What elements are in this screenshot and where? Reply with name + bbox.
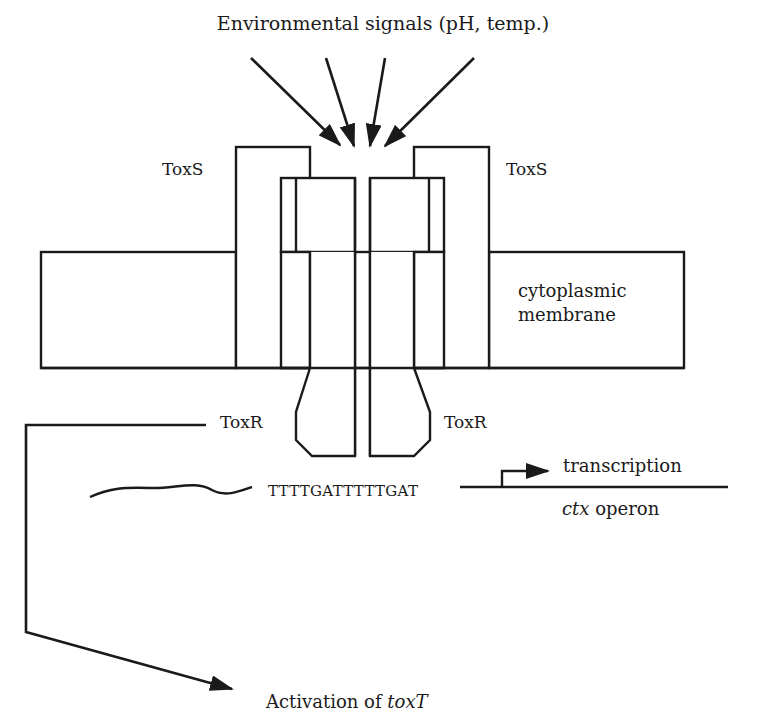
dna-wavy-line [90, 485, 252, 497]
membrane-left [41, 252, 236, 368]
toxs-right-label: ToxS [506, 159, 548, 179]
toxr-regulation-diagram: Environmental signals (pH, temp.) [0, 0, 762, 721]
toxr-left-label: ToxR [220, 412, 264, 432]
signal-arrow-3 [370, 58, 385, 146]
transcription-start-arrow [502, 471, 548, 487]
environmental-signals-title: Environmental signals (pH, temp.) [217, 12, 549, 34]
operon-word: operon [589, 498, 659, 519]
signal-arrow-1 [251, 58, 340, 145]
toxt-activation-arrow [26, 425, 232, 689]
activation-prefix: Activation of [265, 691, 387, 712]
transcription-label: transcription [563, 455, 682, 476]
activation-label: Activation of toxT [265, 691, 430, 712]
signal-arrow-2 [326, 58, 354, 146]
toxr-right [370, 178, 444, 456]
toxt-gene-name: toxT [387, 691, 429, 712]
membrane-center [355, 252, 370, 368]
toxr-left [281, 178, 355, 456]
toxs-left-label: ToxS [162, 159, 204, 179]
membrane-label-line2: membrane [518, 304, 616, 325]
membrane-label-line1: cytoplasmic [518, 280, 626, 301]
toxr-right-label: ToxR [444, 412, 488, 432]
signal-arrow-4 [385, 58, 474, 146]
ctx-operon-label: ctx operon [562, 498, 660, 519]
ctx-gene-name: ctx [562, 498, 589, 519]
signal-arrows [251, 58, 474, 146]
promoter-sequence: TTTTGATTTTTGAT [268, 482, 418, 500]
